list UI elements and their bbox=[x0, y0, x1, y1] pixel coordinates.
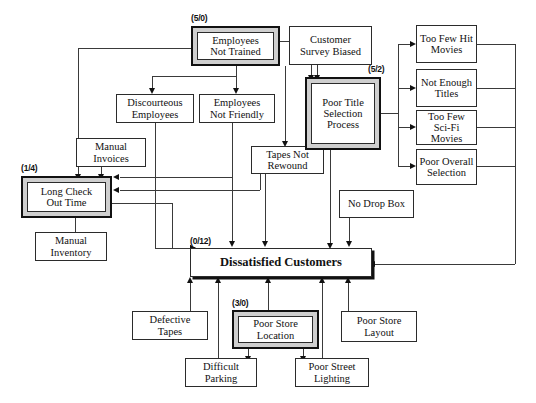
node-poor-title-selection[interactable]: Poor Title Selection Process bbox=[305, 77, 381, 150]
node-tapes-not-rewound[interactable]: Tapes Not Rewound bbox=[251, 146, 324, 174]
tag-poor-store-location: (3/0) bbox=[232, 298, 248, 308]
arrowhead-location-to-effect bbox=[265, 277, 271, 283]
node-no-drop-box[interactable]: No Drop Box bbox=[339, 190, 414, 218]
node-employees-not-trained-label: Employees Not Trained bbox=[210, 35, 260, 58]
node-poor-store-location-label: Poor Store Location bbox=[253, 318, 298, 341]
edge-right-trunk-v bbox=[515, 44, 516, 264]
edge-defective-to-effect-v bbox=[190, 283, 191, 311]
edge-right-trunk-to-effect-h bbox=[375, 264, 515, 265]
edge-location-to-effect-v bbox=[268, 283, 269, 310]
diagram-canvas: (5/0) Employees Not Trained Customer Sur… bbox=[0, 0, 536, 403]
node-dissatisfied-customers[interactable]: Dissatisfied Customers bbox=[190, 248, 372, 277]
node-long-check-out-time[interactable]: Long Check Out Time bbox=[21, 176, 112, 218]
edge-tapes-to-checkout-v bbox=[260, 173, 261, 190]
arrowhead-notfriendly-to-checkout bbox=[113, 174, 119, 180]
node-long-check-out-time-label: Long Check Out Time bbox=[41, 186, 93, 209]
node-poor-title-selection-inner: Poor Title Selection Process bbox=[311, 83, 375, 144]
node-employees-not-trained-inner: Employees Not Trained bbox=[197, 32, 274, 60]
edge-title-fan-v bbox=[398, 44, 399, 153]
edge-overall-to-trunk-h bbox=[477, 166, 515, 167]
edge-titles-to-trunk-h bbox=[477, 88, 515, 89]
tag-dissatisfied-customers: (0/12) bbox=[190, 236, 211, 246]
edge-notfriendly-to-checkout-h bbox=[120, 177, 232, 178]
edge-checkout-to-effect-h bbox=[112, 203, 172, 204]
node-difficult-parking[interactable]: Difficult Parking bbox=[185, 358, 257, 387]
node-discourteous-employees[interactable]: Discourteous Employees bbox=[116, 94, 194, 123]
arrowhead-tapes-to-effect bbox=[262, 241, 268, 247]
edge-parking-to-effect-v bbox=[218, 283, 219, 358]
arrowhead-notfriendly-to-effect bbox=[229, 241, 235, 247]
edge-tapes-to-checkout-h bbox=[120, 190, 260, 191]
edge-checkout-to-effect-h2 bbox=[172, 248, 192, 249]
edge-discourteous-to-effect-v bbox=[155, 123, 156, 248]
edge-lighting-to-effect-v bbox=[322, 283, 323, 358]
node-employees-not-trained[interactable]: Employees Not Trained bbox=[191, 26, 280, 66]
edge-title-fan-v2 bbox=[398, 153, 399, 166]
node-employees-not-friendly[interactable]: Employees Not Friendly bbox=[199, 94, 275, 123]
node-not-enough-titles-label: Not Enough Titles bbox=[419, 77, 474, 100]
node-poor-street-lighting[interactable]: Poor Street Lighting bbox=[295, 358, 369, 387]
node-employees-not-friendly-label: Employees Not Friendly bbox=[208, 97, 266, 120]
edge-trained-bus-h bbox=[152, 76, 236, 77]
node-manual-invoices[interactable]: Manual Invoices bbox=[76, 138, 146, 167]
edge-notfriendly-to-effect-v bbox=[232, 123, 233, 243]
arrowhead-defective-to-effect bbox=[187, 277, 193, 283]
node-poor-overall-selection-label: Poor Overall Selection bbox=[418, 156, 476, 179]
edge-hit-to-trunk-h bbox=[477, 44, 515, 45]
node-difficult-parking-label: Difficult Parking bbox=[201, 361, 241, 384]
arrowhead-lighting-to-effect bbox=[319, 277, 325, 283]
node-no-drop-box-label: No Drop Box bbox=[346, 198, 407, 209]
node-long-check-out-time-inner: Long Check Out Time bbox=[27, 182, 106, 212]
node-too-few-scifi-movies[interactable]: Too Few Sci-Fi Movies bbox=[416, 110, 477, 145]
node-manual-invoices-label: Manual Invoices bbox=[91, 141, 131, 164]
arrowhead-tapes-to-checkout bbox=[113, 187, 119, 193]
node-poor-store-location-inner: Poor Store Location bbox=[238, 316, 313, 343]
node-manual-inventory[interactable]: Manual Inventory bbox=[35, 232, 107, 261]
node-dissatisfied-customers-label: Dissatisfied Customers bbox=[220, 255, 342, 270]
edge-title-right-h bbox=[381, 113, 398, 114]
edge-tapes-to-effect-v bbox=[265, 173, 266, 243]
node-too-few-hit-movies[interactable]: Too Few Hit Movies bbox=[416, 25, 477, 63]
node-tapes-not-rewound-label: Tapes Not Rewound bbox=[264, 149, 311, 172]
node-poor-store-layout-label: Poor Store Layout bbox=[355, 315, 404, 338]
node-too-few-hit-movies-label: Too Few Hit Movies bbox=[418, 33, 475, 56]
node-poor-title-selection-label: Poor Title Selection Process bbox=[322, 97, 364, 131]
node-manual-inventory-label: Manual Inventory bbox=[49, 235, 94, 258]
node-customer-survey-biased[interactable]: Customer Survey Biased bbox=[289, 26, 372, 65]
node-discourteous-employees-label: Discourteous Employees bbox=[125, 97, 184, 120]
edge-dropbox-to-effect-v bbox=[349, 218, 350, 243]
edge-trained-down-v bbox=[236, 66, 237, 76]
node-customer-survey-biased-label: Customer Survey Biased bbox=[298, 34, 363, 57]
node-poor-overall-selection[interactable]: Poor Overall Selection bbox=[416, 149, 477, 185]
node-poor-street-lighting-label: Poor Street Lighting bbox=[307, 361, 358, 384]
tag-long-check-out-time: (1/4) bbox=[21, 163, 37, 173]
arrowhead-dropbox-to-effect bbox=[346, 241, 352, 247]
edge-title-to-effect-v bbox=[330, 150, 331, 246]
tag-employees-not-trained: (5/0) bbox=[191, 13, 207, 23]
node-too-few-scifi-movies-label: Too Few Sci-Fi Movies bbox=[417, 111, 476, 145]
node-not-enough-titles[interactable]: Not Enough Titles bbox=[416, 69, 477, 107]
node-defective-tapes[interactable]: Defective Tapes bbox=[132, 311, 208, 340]
edge-trained-to-tapes-v bbox=[285, 66, 286, 143]
node-poor-store-layout[interactable]: Poor Store Layout bbox=[341, 311, 417, 342]
edge-layout-to-effect-v bbox=[348, 283, 349, 311]
node-poor-store-location[interactable]: Poor Store Location bbox=[232, 310, 319, 349]
edge-inventory-to-checkout-v bbox=[75, 218, 76, 232]
edge-trained-to-checkout-h bbox=[78, 48, 191, 49]
tag-poor-title-selection: (5/2) bbox=[368, 64, 384, 74]
edge-checkout-to-effect-v bbox=[172, 203, 173, 248]
edge-scifi-to-trunk-h bbox=[477, 127, 515, 128]
arrowhead-layout-to-effect bbox=[345, 277, 351, 283]
node-defective-tapes-label: Defective Tapes bbox=[148, 314, 193, 337]
arrowhead-parking-to-effect bbox=[215, 277, 221, 283]
